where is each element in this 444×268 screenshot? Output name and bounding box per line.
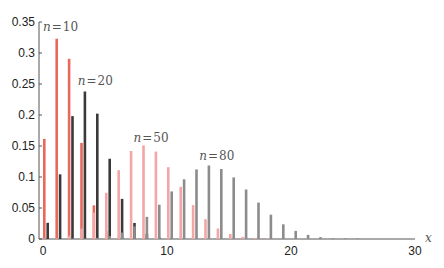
bar — [71, 238, 74, 239]
y-axis: 00.050.10.150.20.250.30.35 — [12, 15, 42, 246]
y-tick-label: 0.1 — [18, 170, 35, 184]
bar — [208, 165, 211, 239]
bar — [192, 205, 195, 239]
bar — [195, 169, 198, 239]
series-label-value: 10 — [63, 20, 78, 34]
bar-series-n20 — [46, 92, 173, 240]
bar — [319, 237, 322, 239]
bar — [93, 212, 96, 239]
y-tick-label: 0 — [28, 232, 35, 246]
bar — [167, 167, 170, 239]
bar — [254, 238, 257, 239]
bar — [68, 59, 71, 239]
bar — [108, 236, 111, 239]
bar — [257, 203, 260, 239]
bar — [204, 219, 207, 239]
bar-series-n80 — [71, 165, 359, 239]
series-label-value: 20 — [98, 74, 113, 88]
series-label-n10: n=10 — [43, 20, 78, 34]
series-label-var: n — [199, 149, 207, 163]
bar — [133, 226, 136, 239]
bar — [266, 238, 269, 239]
bar — [80, 229, 83, 239]
series-label-eq: = — [52, 20, 62, 34]
series-label-var: n — [134, 131, 142, 145]
bar — [108, 159, 111, 239]
bar — [245, 189, 248, 239]
bar — [241, 237, 244, 239]
bar — [220, 169, 223, 239]
bar — [59, 174, 62, 239]
x-tick-label: 10 — [160, 244, 174, 258]
bar-series-group — [43, 39, 359, 239]
bar — [179, 187, 182, 239]
series-label-value: 50 — [153, 131, 168, 145]
bar — [217, 229, 220, 239]
bar — [294, 231, 297, 239]
bar — [68, 236, 71, 239]
bar — [84, 238, 87, 239]
y-tick-label: 0.3 — [18, 46, 35, 60]
bar — [170, 191, 173, 239]
bar — [146, 217, 149, 239]
series-label-eq: = — [86, 74, 96, 88]
series-label-n80: n=80 — [199, 149, 234, 163]
series-label-n20: n=20 — [78, 74, 113, 88]
series-label-n50: n=50 — [134, 131, 169, 145]
bar — [117, 170, 120, 239]
series-label-eq: = — [142, 131, 152, 145]
series-label-var: n — [78, 74, 86, 88]
series-label-value: 80 — [219, 149, 234, 163]
x-tick-label: 0 — [40, 244, 47, 258]
bar — [130, 151, 133, 239]
bar — [229, 234, 232, 239]
series-label-eq: = — [208, 149, 218, 163]
bar — [270, 215, 273, 239]
bar — [71, 116, 74, 239]
y-tick-label: 0.15 — [12, 139, 36, 153]
bar — [46, 223, 49, 239]
y-tick-label: 0.35 — [12, 15, 36, 29]
bar — [332, 238, 335, 239]
x-axis-label: x — [425, 231, 432, 245]
bar — [55, 238, 58, 239]
series-label-var: n — [43, 20, 51, 34]
bar — [307, 235, 310, 239]
bar — [356, 238, 359, 239]
bar — [121, 233, 124, 239]
bar — [96, 114, 99, 239]
bar — [84, 92, 87, 240]
bar — [43, 238, 46, 239]
bar — [183, 179, 186, 239]
binomial-bar-chart: 00.050.10.150.20.250.30.35 0102030x n=10… — [0, 0, 444, 268]
bar — [282, 224, 285, 239]
bar — [43, 139, 46, 239]
bar — [80, 143, 83, 239]
bar — [158, 205, 161, 239]
bar — [142, 145, 145, 239]
bar — [55, 39, 58, 239]
bar — [105, 193, 108, 239]
bar — [232, 177, 235, 239]
bar — [96, 238, 99, 239]
y-tick-label: 0.05 — [12, 201, 36, 215]
y-tick-label: 0.25 — [12, 77, 36, 91]
x-tick-label: 30 — [408, 244, 422, 258]
y-tick-label: 0.2 — [18, 108, 35, 122]
bar — [155, 152, 158, 239]
bar — [344, 238, 347, 239]
x-tick-label: 20 — [284, 244, 298, 258]
